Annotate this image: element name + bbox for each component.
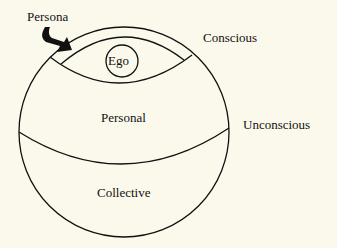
persona-arrow-icon (42, 27, 72, 52)
ego-label: Ego (108, 53, 129, 69)
unconscious-label: Unconscious (243, 117, 310, 133)
personal-collective-divider (19, 128, 229, 164)
collective-label: Collective (97, 185, 150, 201)
personal-label: Personal (101, 110, 146, 126)
conscious-label: Conscious (203, 30, 257, 46)
persona-label: Persona (27, 9, 68, 25)
